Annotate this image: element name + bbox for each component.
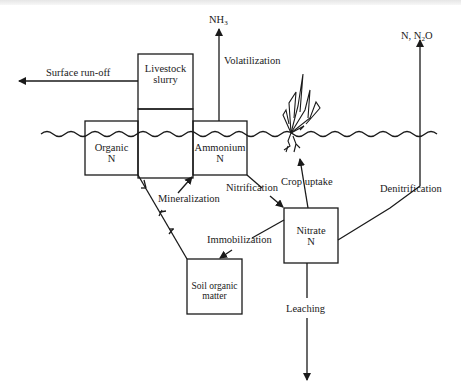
organic-n-node: Organic N (85, 142, 138, 164)
denitrification-label: Denitrification (380, 183, 442, 194)
soil-organic-matter-label-2: matter (184, 291, 245, 301)
nitrification-label: Nitrification (226, 182, 278, 193)
surface-runoff-label: Surface run-off (46, 67, 110, 78)
soil-surface-line (41, 132, 437, 137)
nitrate-n-label-1: Nitrate (284, 225, 338, 236)
leaching-label: Leaching (286, 303, 325, 314)
livestock-slurry-label-2: slurry (138, 74, 193, 85)
organic-n-label-2: N (85, 153, 138, 164)
livestock-slurry-node: Livestock slurry (138, 63, 193, 85)
immobilization-label: Immobilization (207, 234, 272, 245)
ammonium-n-node: Ammonium N (190, 142, 250, 164)
denitrification-arrow (338, 40, 420, 240)
ammonium-n-label-1: Ammonium (190, 142, 250, 153)
livestock-slurry-label-1: Livestock (138, 63, 193, 74)
crop-uptake-label: Crop uptake (281, 176, 333, 187)
organic-n-label-1: Organic (85, 142, 138, 153)
volatilization-label: Volatilization (224, 55, 280, 66)
mineralization-arrow (178, 177, 192, 193)
soil-organic-matter-label-1: Soil organic (184, 281, 245, 291)
crop-plant-icon (283, 74, 320, 152)
immobilization-arrow (220, 250, 232, 258)
soil-organic-matter-node: Soil organic matter (184, 281, 245, 301)
n-n2o-output-label: N, N2O (401, 30, 433, 41)
mineralization-label: Mineralization (158, 193, 220, 204)
nh3-output-label: NH3 (209, 14, 228, 25)
nitrate-n-node: Nitrate N (284, 225, 338, 247)
slurry-incorporation-box (138, 109, 193, 178)
ammonium-n-label-2: N (190, 153, 250, 164)
nitrate-n-label-2: N (284, 236, 338, 247)
